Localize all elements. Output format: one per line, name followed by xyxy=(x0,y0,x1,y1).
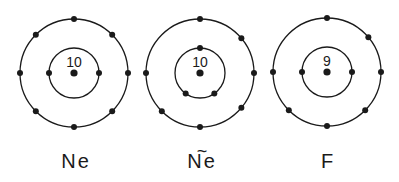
label-f: F xyxy=(321,150,335,173)
outer-electron xyxy=(71,124,77,130)
nucleus xyxy=(323,68,330,75)
outer-electron xyxy=(362,107,368,113)
inner-electron xyxy=(96,70,102,76)
outer-electron xyxy=(33,32,39,38)
element-symbol: F xyxy=(321,150,335,172)
outer-electron xyxy=(324,15,330,21)
inner-electron xyxy=(211,90,217,96)
outer-electron xyxy=(270,69,276,75)
inner-electron xyxy=(183,90,189,96)
outer-electron xyxy=(109,108,115,114)
outer-electron xyxy=(238,35,244,41)
outer-electron xyxy=(109,32,115,38)
atom-ne: 10 xyxy=(17,16,131,130)
inner-electron xyxy=(46,70,52,76)
outer-electron xyxy=(238,105,244,111)
outer-electron xyxy=(286,107,292,113)
nucleus-charge: 10 xyxy=(66,54,82,70)
outer-electron xyxy=(365,34,371,40)
outer-electron xyxy=(251,70,257,76)
outer-electron xyxy=(378,69,384,75)
nucleus-charge: 9 xyxy=(323,53,331,69)
element-symbol: Ne xyxy=(61,150,91,172)
inner-electron xyxy=(299,69,305,75)
atom-f: 9 xyxy=(270,15,384,129)
inner-electron xyxy=(349,69,355,75)
outer-electron xyxy=(197,124,203,130)
tilde-mark: ~ xyxy=(197,141,208,162)
outer-electron xyxy=(17,70,23,76)
outer-electron xyxy=(33,108,39,114)
outer-electron xyxy=(125,70,131,76)
nucleus-charge: 10 xyxy=(192,54,208,70)
outer-electron xyxy=(197,16,203,22)
inner-electron xyxy=(197,45,203,51)
element-symbol-with-tilde: ~ Ne xyxy=(187,150,217,173)
nucleus xyxy=(70,69,77,76)
label-ne-excited: ~ Ne xyxy=(187,150,217,173)
outer-electron xyxy=(324,123,330,129)
label-ne: Ne xyxy=(61,150,91,173)
outer-electron xyxy=(159,108,165,114)
outer-electron xyxy=(143,70,149,76)
nucleus xyxy=(196,69,203,76)
atom-ne-excited: 10 xyxy=(143,16,257,130)
outer-electron xyxy=(71,16,77,22)
